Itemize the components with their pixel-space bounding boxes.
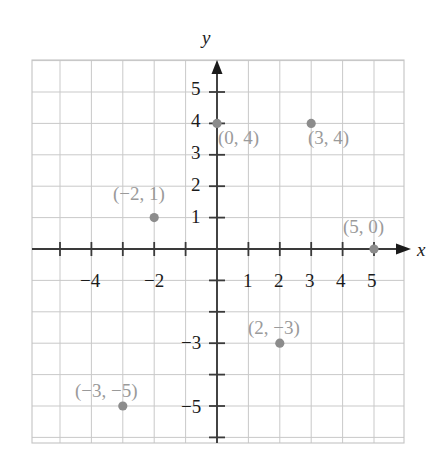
x-tick-label-1: 1 <box>243 271 253 290</box>
point-label-5-0: (5, 0) <box>343 217 384 236</box>
y-tick-label-3: 3 <box>191 143 201 162</box>
x-tick-label-5: 5 <box>367 271 377 290</box>
point-label-3-4: (3, 4) <box>308 128 349 147</box>
x-tick-label-3: 3 <box>305 271 315 290</box>
coordinate-plane-figure: y x −4 −2 1 2 3 4 5 5 4 3 2 1 −3 −5 (0, … <box>0 0 446 471</box>
y-tick-label-4: 4 <box>191 111 201 130</box>
point-label-2-minus3: (2, −3) <box>248 318 300 337</box>
point-label-minus2-1: (−2, 1) <box>113 184 165 203</box>
y-tick-label-minus-3: −3 <box>181 333 201 352</box>
y-tick-label-2: 2 <box>191 175 201 194</box>
x-axis-label: x <box>417 240 425 259</box>
y-tick-label-5: 5 <box>191 79 201 98</box>
y-axis-label: y <box>202 28 210 47</box>
point-label-0-4: (0, 4) <box>218 128 259 147</box>
point-label-minus3-minus5: (−3, −5) <box>75 381 138 400</box>
data-point <box>150 213 159 222</box>
x-tick-label-2: 2 <box>274 271 284 290</box>
y-tick-label-1: 1 <box>191 207 201 226</box>
x-tick-label-4: 4 <box>336 271 346 290</box>
x-tick-label-minus-4: −4 <box>80 271 100 290</box>
data-point <box>118 401 127 410</box>
data-point <box>275 339 284 348</box>
data-point <box>369 244 378 253</box>
y-tick-label-minus-5: −5 <box>181 397 201 416</box>
x-tick-label-minus-2: −2 <box>144 271 164 290</box>
